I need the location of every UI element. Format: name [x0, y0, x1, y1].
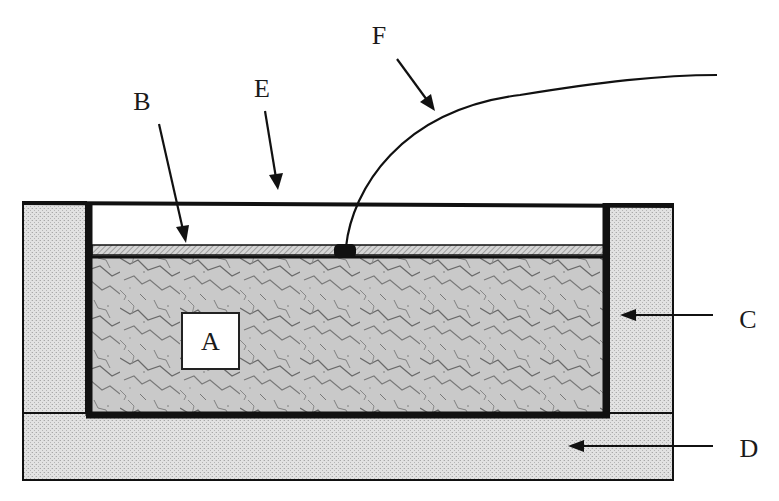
region-a-fill — [92, 256, 605, 412]
right-pillar-c — [609, 204, 673, 413]
arrow-f-head — [420, 94, 435, 111]
label-e: E — [254, 74, 270, 103]
label-c: C — [739, 305, 756, 334]
cross-section-diagram: A B E F C D — [0, 0, 779, 501]
label-f: F — [372, 21, 386, 50]
arrow-e-shaft — [265, 111, 276, 178]
label-d: D — [740, 434, 759, 463]
label-b: B — [133, 87, 150, 116]
arrow-f-shaft — [397, 59, 427, 100]
arrow-e-head — [269, 173, 283, 190]
left-pillar — [23, 202, 86, 413]
top-line-e — [23, 203, 673, 206]
arrow-b-shaft — [159, 124, 183, 230]
contact-dot — [334, 244, 356, 258]
label-a: A — [201, 327, 220, 356]
arrow-b-head — [176, 225, 189, 243]
